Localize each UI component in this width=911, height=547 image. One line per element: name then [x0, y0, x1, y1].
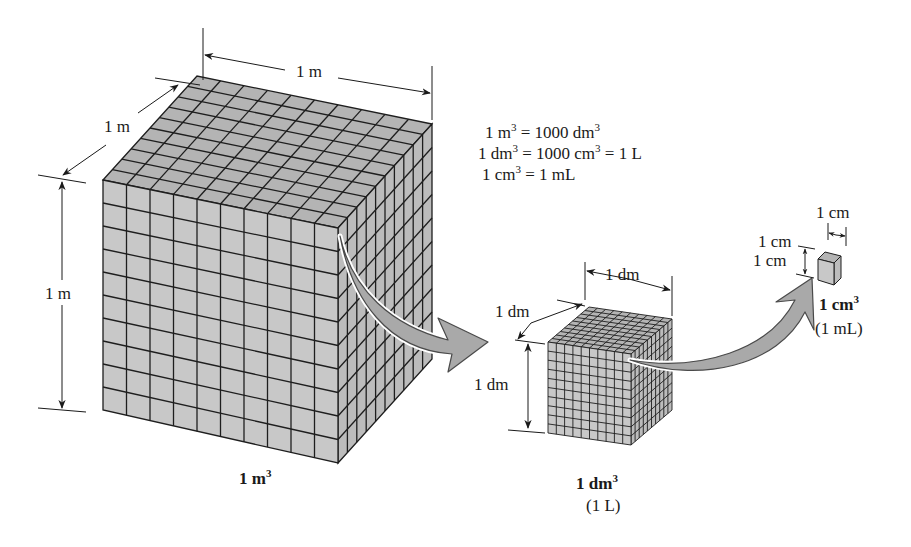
- dim-label-height-cm: 1 cm: [753, 252, 787, 269]
- subcaption-cubic-decimeter: (1 L): [586, 497, 620, 514]
- equation-row: 1 m3 = 1000 dm3: [485, 122, 649, 143]
- superscript: 3: [853, 293, 859, 305]
- dim-label-width-cm: 1 cm: [816, 204, 850, 221]
- superscript: 3: [266, 467, 272, 479]
- dim-label-height-m: 1 m: [45, 285, 71, 302]
- equation-lhs: 1 dm: [478, 144, 512, 163]
- dim-label-width-m: 1 m: [296, 63, 322, 80]
- superscript: 3: [595, 121, 601, 133]
- equation-rhs: = 1 L: [601, 144, 642, 163]
- caption-cubic-decimeter: 1 dm3: [576, 475, 618, 492]
- volume-diagram: [0, 0, 911, 547]
- caption-text: 1 cm: [819, 295, 853, 314]
- equation-row: 1 cm3 = 1 mL: [482, 164, 646, 185]
- dim-label-depth-m: 1 m: [104, 118, 130, 135]
- dim-label-height-dm: 1 dm: [474, 376, 508, 393]
- cubic-meter-cube: [103, 76, 432, 463]
- equation-lhs: 1 m: [485, 123, 511, 142]
- superscript: 3: [612, 472, 618, 484]
- subcaption-cubic-centimeter: (1 mL): [815, 320, 863, 337]
- equations-block: 1 m3 = 1000 dm3 1 dm3 = 1000 cm3 = 1 L 1…: [478, 122, 642, 185]
- equation-lhs: 1 cm: [482, 165, 516, 184]
- dim-label-depth-dm: 1 dm: [495, 303, 529, 320]
- caption-cubic-meter: 1 m3: [239, 470, 271, 487]
- equation-mid: = 1000 dm: [516, 123, 594, 142]
- equation-row: 1 dm3 = 1000 cm3 = 1 L: [478, 143, 642, 164]
- caption-text: 1 dm: [576, 474, 612, 493]
- equation-mid: = 1000 cm: [518, 144, 595, 163]
- cubic-centimeter-cube: [818, 252, 841, 285]
- caption-text: 1 m: [239, 469, 266, 488]
- dim-label-depth-cm: 1 cm: [758, 233, 792, 250]
- equation-mid: = 1 mL: [521, 165, 575, 184]
- dim-label-width-dm: 1 dm: [605, 266, 639, 283]
- cubic-decimeter-cube: [548, 307, 672, 445]
- caption-cubic-centimeter: 1 cm3: [819, 296, 859, 313]
